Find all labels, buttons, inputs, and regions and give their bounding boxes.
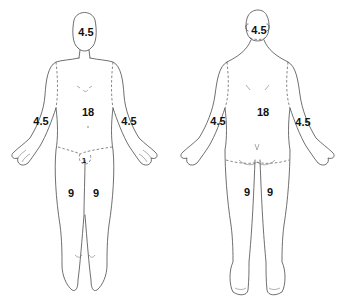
front-left-leg-label: 9 bbox=[93, 188, 99, 199]
front-genitals-label: 1 bbox=[82, 155, 86, 166]
front-left-arm-label: 4.5 bbox=[121, 116, 136, 127]
back-right-arm-label: 4.5 bbox=[210, 116, 225, 127]
front-body-outline bbox=[0, 0, 169, 302]
back-trunk-label: 18 bbox=[257, 107, 269, 118]
front-trunk-label: 18 bbox=[82, 107, 94, 118]
back-right-leg-label: 9 bbox=[244, 187, 250, 198]
front-head-label: 4.5 bbox=[78, 27, 93, 38]
front-body-figure: 4.5 18 4.5 4.5 1 9 9 bbox=[0, 0, 169, 302]
back-head-label: 4.5 bbox=[251, 25, 266, 36]
front-right-arm-label: 4.5 bbox=[33, 116, 48, 127]
front-right-leg-label: 9 bbox=[68, 188, 74, 199]
back-left-leg-label: 9 bbox=[267, 187, 273, 198]
back-body-figure: 4.5 18 4.5 4.5 9 9 bbox=[169, 0, 338, 302]
back-body-outline bbox=[169, 0, 338, 302]
back-left-arm-label: 4.5 bbox=[295, 117, 310, 128]
